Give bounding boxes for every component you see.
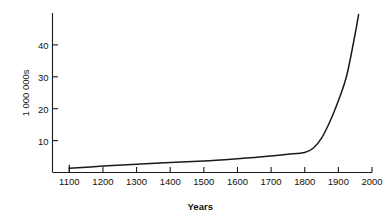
y-axis-tick-label: 20 <box>38 103 49 114</box>
y-axis-tick-label: 30 <box>38 71 49 82</box>
y-axis-ticks <box>53 45 59 141</box>
y-axis-tick-label: 40 <box>38 39 49 50</box>
data-line-population <box>69 15 358 169</box>
x-axis-tick-label: 1800 <box>294 176 315 187</box>
x-axis-tick-label: 1900 <box>328 176 349 187</box>
chart-plot-area <box>0 0 384 220</box>
data-series-layer <box>69 15 358 172</box>
chart-figure: 10203040 1100120013001400150016001700180… <box>0 0 384 220</box>
x-axis-title: Years <box>188 201 213 212</box>
x-axis-tick-label: 1100 <box>59 176 79 187</box>
x-axis-tick-label: 1600 <box>227 176 248 187</box>
x-axis-tick-label: 1300 <box>126 176 147 187</box>
x-axis-tick-label: 1500 <box>193 176 214 187</box>
x-axis-tick-label: 1200 <box>92 176 113 187</box>
x-axis-tick-label: 2000 <box>361 176 382 187</box>
x-axis-tick-label: 1700 <box>261 176 282 187</box>
y-axis-tick-label: 10 <box>38 135 49 146</box>
x-axis-ticks <box>69 167 372 173</box>
x-axis-tick-label: 1400 <box>160 176 181 187</box>
y-axis-title: 1 000 000s <box>20 69 31 116</box>
